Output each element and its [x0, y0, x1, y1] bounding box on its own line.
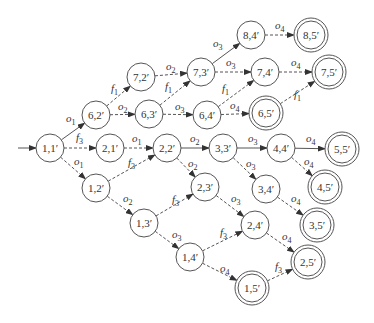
- state-node-n15: 1,5′: [235, 271, 269, 305]
- state-node-n22: 2,2′: [153, 134, 181, 162]
- diagram-canvas: 1,1′6,2′2,1′1,2′7,2′6,3′2,2′1,3′7,3′6,4′…: [0, 0, 374, 323]
- state-node-n74: 7,4′: [251, 58, 279, 86]
- state-label: 3,4′: [258, 183, 274, 195]
- state-label: 3,5′: [309, 219, 325, 231]
- edge-label: f1: [294, 88, 301, 103]
- edge-label: f1: [222, 82, 229, 97]
- edge-label: o3: [248, 132, 258, 147]
- edge-label: o4: [291, 192, 301, 207]
- state-label: 1,1′: [42, 142, 58, 154]
- state-label: 8,4′: [243, 29, 259, 41]
- state-node-n13: 1,3′: [130, 209, 158, 237]
- state-label: 3,3′: [215, 142, 231, 154]
- state-transition-diagram: 1,1′6,2′2,1′1,2′7,2′6,3′2,2′1,3′7,3′6,4′…: [0, 0, 374, 323]
- edge-label: o2: [118, 100, 128, 115]
- edge-label: o3: [213, 37, 223, 52]
- state-label: 6,4′: [199, 109, 215, 121]
- state-label: 7,5′: [321, 66, 337, 78]
- edge-label: f3: [128, 156, 135, 171]
- state-label: 4,4′: [273, 142, 289, 154]
- state-label: 1,3′: [136, 217, 152, 229]
- state-node-n14: 1,4′: [176, 243, 204, 271]
- edge-label: o3: [246, 157, 256, 172]
- edge-label: o3: [172, 228, 182, 243]
- state-node-n55: 5,5′: [325, 132, 359, 166]
- edge-label: f3: [220, 226, 227, 241]
- state-node-n63: 6,3′: [135, 100, 163, 128]
- edge-label: o4: [282, 230, 292, 245]
- edge-label: f3: [76, 131, 83, 146]
- edge-label: o1: [66, 112, 76, 127]
- state-node-n24: 2,4′: [241, 211, 269, 239]
- state-node-n25: 2,5′: [291, 245, 325, 279]
- state-node-n21: 2,1′: [96, 134, 124, 162]
- state-node-n85: 8,5′: [294, 18, 328, 52]
- edge-label: f3: [275, 260, 282, 275]
- state-node-n64: 6,4′: [193, 101, 221, 129]
- edge-label: f1: [165, 80, 172, 95]
- state-node-n72: 7,2′: [127, 63, 155, 91]
- edge-label: o2: [123, 192, 133, 207]
- state-label: 2,2′: [159, 142, 175, 154]
- state-node-n12: 1,2′: [82, 174, 110, 202]
- state-label: 8,5′: [303, 29, 319, 41]
- state-label: 2,4′: [247, 219, 263, 231]
- state-label: 2,3′: [197, 181, 213, 193]
- state-label: 4,5′: [317, 181, 333, 193]
- edge-label: f1: [111, 82, 118, 97]
- state-node-n65: 6,5′: [249, 96, 283, 130]
- state-node-n45: 4,5′: [308, 170, 342, 204]
- edge-label: o2: [188, 157, 198, 172]
- edge-label: o2: [166, 60, 176, 75]
- edge-label: o4: [304, 155, 314, 170]
- edge-label: o1: [74, 155, 84, 170]
- state-node-n35: 3,5′: [300, 208, 334, 242]
- state-node-n11: 1,1′: [36, 134, 64, 162]
- edge-label: o3: [175, 100, 185, 115]
- edge-label: o4: [230, 99, 240, 114]
- state-node-n44: 4,4′: [267, 134, 295, 162]
- state-label: 6,2′: [88, 109, 104, 121]
- edge-label: o1: [132, 132, 142, 147]
- edge-label: o3: [226, 56, 236, 71]
- state-node-n23: 2,3′: [191, 173, 219, 201]
- edge-label: o3: [231, 192, 241, 207]
- state-label: 6,5′: [258, 107, 274, 119]
- state-label: 7,3′: [193, 66, 209, 78]
- edge-label: o4: [275, 19, 285, 34]
- edge-label: f3: [172, 193, 179, 208]
- state-node-n84: 8,4′: [237, 21, 265, 49]
- state-label: 6,3′: [141, 108, 157, 120]
- state-label: 1,4′: [182, 251, 198, 263]
- state-label: 2,5′: [300, 256, 316, 268]
- state-label: 7,2′: [133, 71, 149, 83]
- state-node-n34: 3,4′: [252, 175, 280, 203]
- state-label: 2,1′: [102, 142, 118, 154]
- state-label: 1,5′: [244, 282, 260, 294]
- edge-label: o4: [306, 132, 316, 147]
- state-label: 7,4′: [257, 66, 273, 78]
- state-label: 1,2′: [88, 182, 104, 194]
- state-node-n62: 6,2′: [82, 101, 110, 129]
- transition-edge-n63-n64: [163, 114, 193, 115]
- edge-label: o4: [291, 56, 301, 71]
- state-node-n33: 3,3′: [209, 134, 237, 162]
- edge-label: o2: [190, 132, 200, 147]
- edge-label: o4: [220, 262, 230, 277]
- state-node-n73: 7,3′: [187, 58, 215, 86]
- state-node-n75: 7,5′: [312, 55, 346, 89]
- state-label: 5,5′: [334, 143, 350, 155]
